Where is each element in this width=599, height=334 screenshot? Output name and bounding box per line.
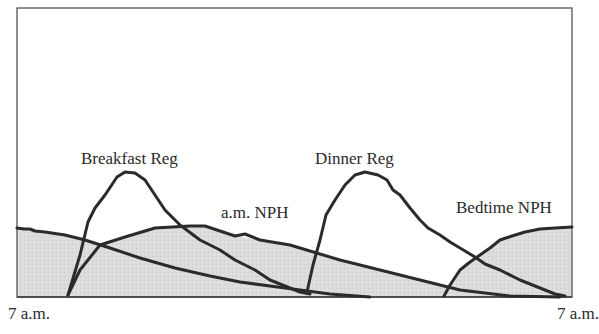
label-breakfast-reg: Breakfast Reg <box>81 150 178 167</box>
x-axis-end-label: 7 a.m. <box>557 305 599 322</box>
label-bedtime-nph: Bedtime NPH <box>456 199 552 216</box>
basal-shaded-region <box>17 226 572 297</box>
label-am-nph: a.m. NPH <box>221 204 289 221</box>
x-axis-start-label: 7 a.m. <box>8 305 50 322</box>
label-dinner-reg: Dinner Reg <box>315 150 394 167</box>
